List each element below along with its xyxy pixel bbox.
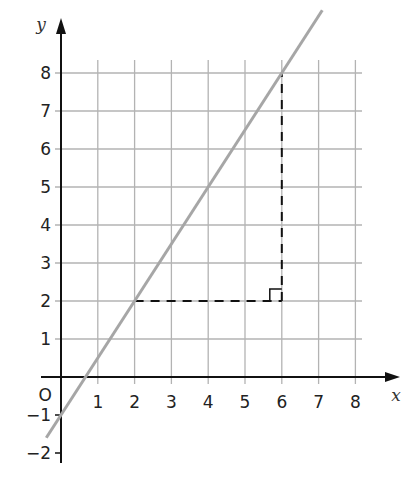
y-axis-label: y <box>35 14 46 34</box>
series-line <box>46 10 322 438</box>
x-tick-label: 6 <box>276 392 287 412</box>
y-tick-label: 2 <box>40 291 51 311</box>
tick-labels: 12345678−2−112345678Oxy <box>26 14 401 463</box>
x-tick-label: 3 <box>166 392 177 412</box>
y-tick-label: 1 <box>40 329 51 349</box>
y-tick-label: −1 <box>26 405 51 425</box>
y-tick-label: 3 <box>40 253 51 273</box>
x-tick-label: 1 <box>92 392 103 412</box>
y-axis-arrow-icon <box>56 18 66 34</box>
y-tick-label: 4 <box>40 215 51 235</box>
x-tick-label: 5 <box>240 392 251 412</box>
x-tick-label: 2 <box>129 392 140 412</box>
grid-lines <box>55 60 362 384</box>
x-tick-label: 8 <box>350 392 361 412</box>
x-axis-arrow-icon <box>385 372 400 382</box>
x-tick-label: 4 <box>203 392 214 412</box>
x-axis-label: x <box>391 385 401 405</box>
plotted-line <box>46 10 322 438</box>
y-tick-label: 8 <box>40 63 51 83</box>
y-tick-label: −2 <box>26 443 51 463</box>
right-angle-marker-icon <box>270 289 282 301</box>
coordinate-plane: 12345678−2−112345678Oxy <box>0 0 420 500</box>
y-tick-label: 6 <box>40 139 51 159</box>
y-tick-label: 7 <box>40 101 51 121</box>
y-tick-label: 5 <box>40 177 51 197</box>
x-tick-label: 7 <box>313 392 324 412</box>
origin-label: O <box>39 385 52 405</box>
